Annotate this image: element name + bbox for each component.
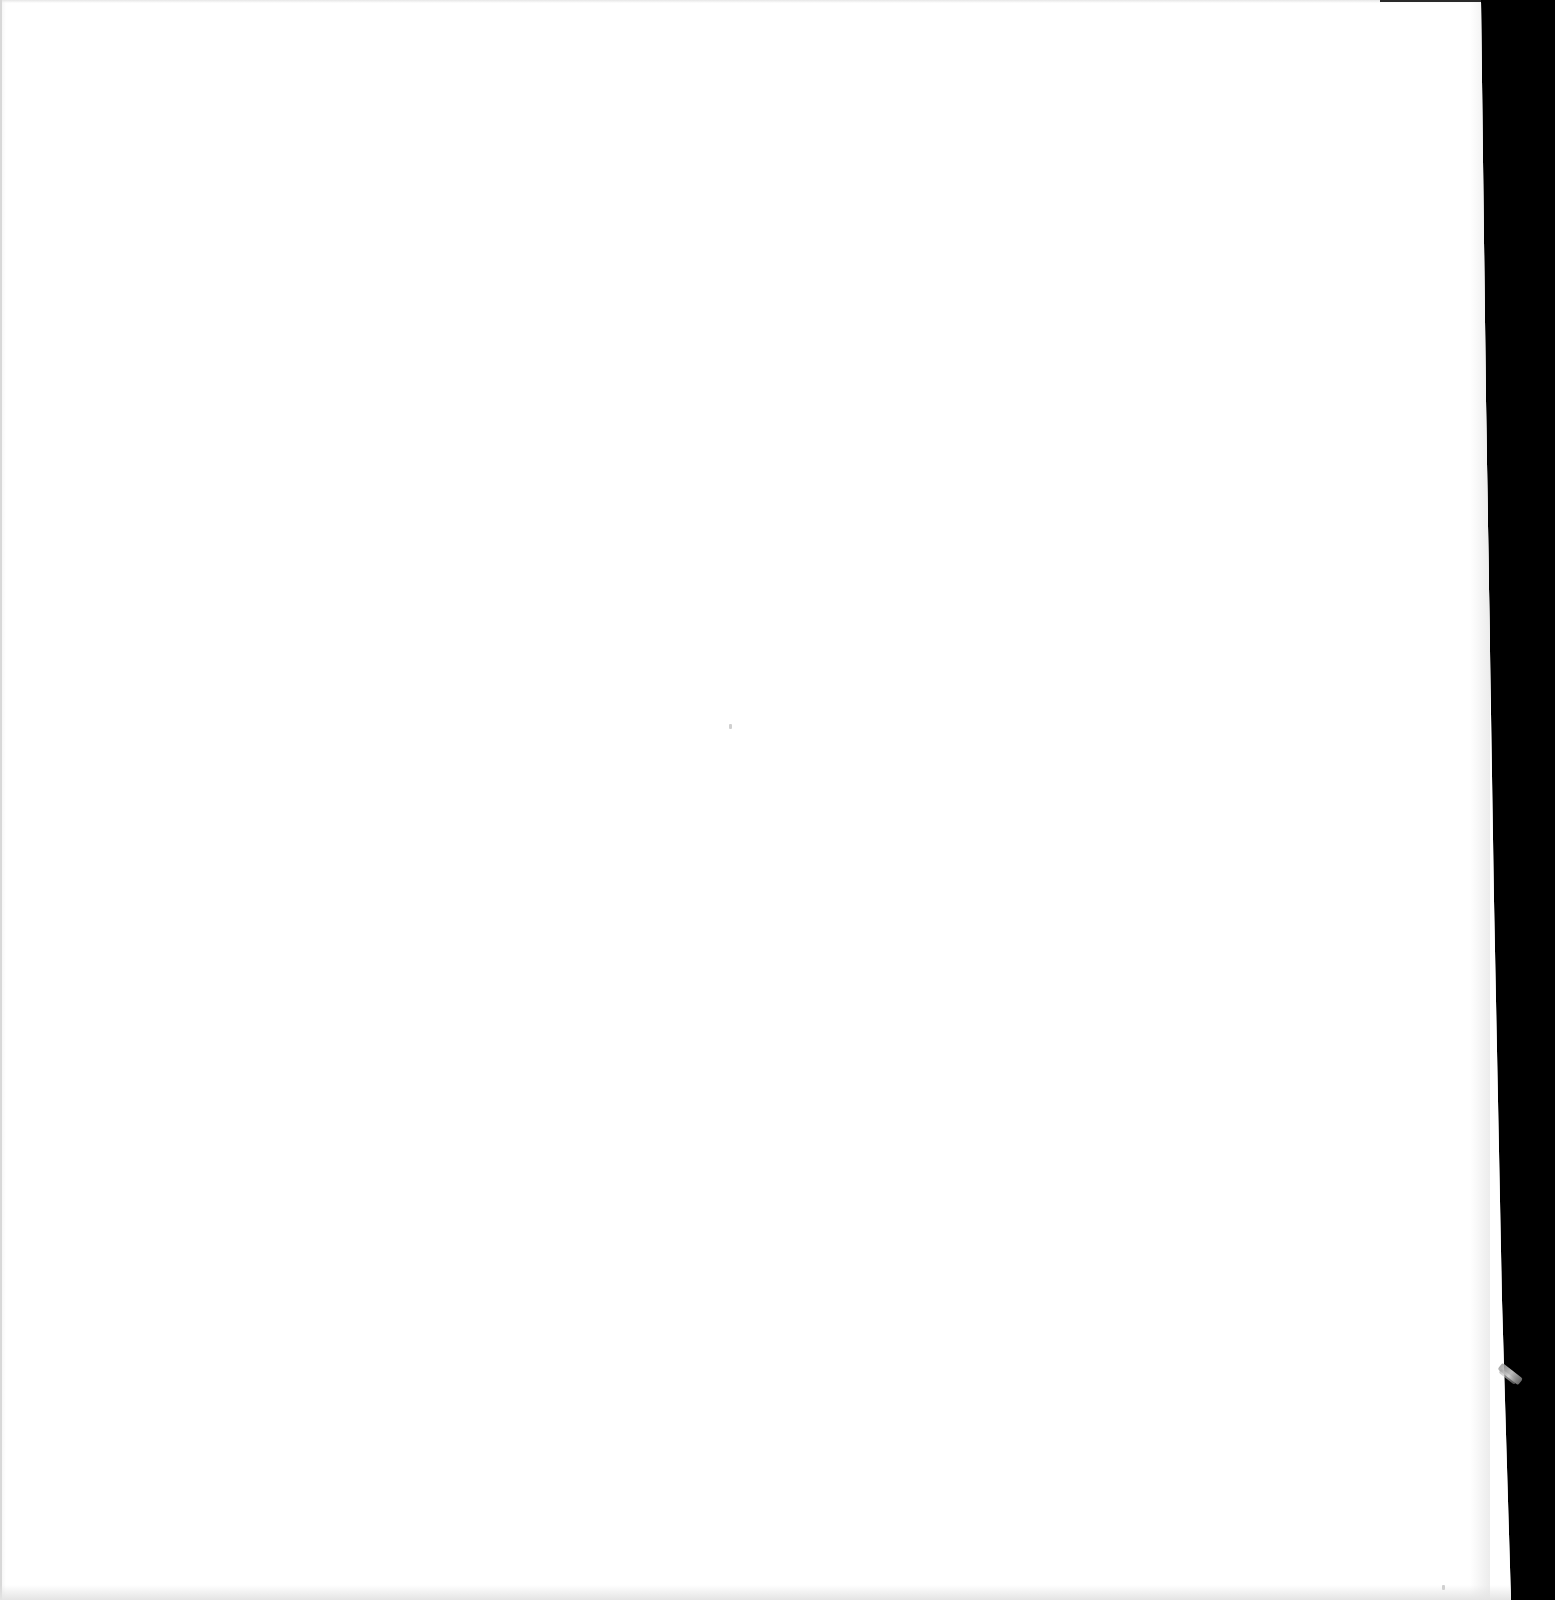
dust-speck (1442, 1585, 1445, 1590)
scanner-background (0, 0, 1555, 1600)
top-edge-dark-line (1380, 0, 1481, 2)
bottom-edge-shade (0, 1585, 1511, 1600)
left-edge-line (0, 0, 2, 1600)
dust-speck (729, 724, 732, 729)
paper-texture (0, 0, 1555, 1600)
top-edge-shadow (0, 0, 1481, 3)
right-edge-shade (1470, 0, 1490, 1600)
blank-page (0, 0, 1555, 1600)
